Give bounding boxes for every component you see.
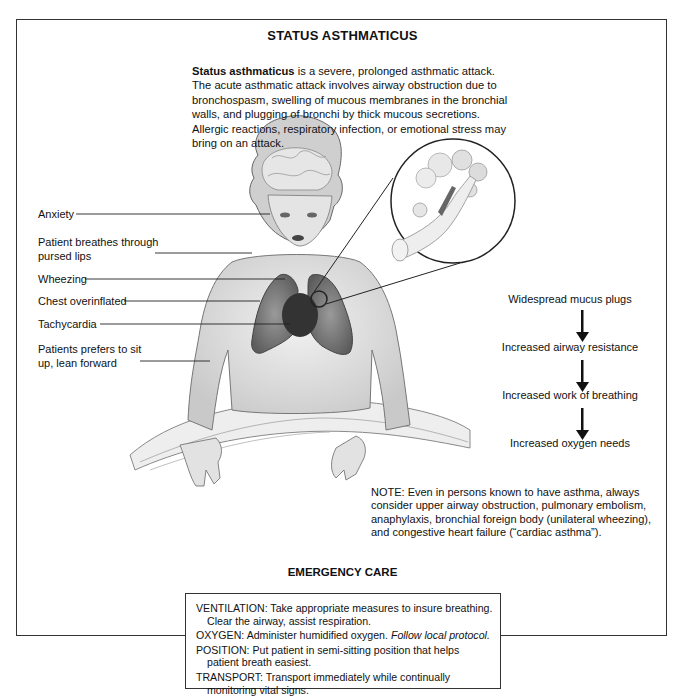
care-item-continuation: Clear the airway, assist respiration.	[196, 615, 494, 628]
label-wheezing: Wheezing	[38, 273, 87, 287]
label-pursed-lips: Patient breathes throughpursed lips	[38, 236, 158, 263]
label-text: pursed lips	[38, 250, 158, 264]
intro-bold-term: Status asthmaticus	[192, 65, 295, 77]
label-text: Wheezing	[38, 273, 87, 285]
flow-step: Increased oxygen needs	[480, 436, 660, 450]
page-title: STATUS ASTHMATICUS	[0, 28, 685, 43]
intro-text: is a severe, prolonged asthmatic attack.…	[192, 65, 507, 149]
care-item-text: VENTILATION: Take appropriate measures t…	[196, 602, 494, 615]
label-text: Patient breathes through	[38, 236, 158, 250]
emergency-care-box: VENTILATION: Take appropriate measures t…	[185, 593, 501, 689]
label-text: up, lean forward	[38, 357, 141, 371]
down-arrow-icon	[480, 354, 660, 388]
care-item-continuation: patient breath easiest.	[196, 656, 494, 669]
care-item-text: POSITION: Put patient in semi-sitting po…	[196, 644, 494, 657]
down-arrow-icon	[480, 306, 660, 340]
heart	[282, 293, 318, 337]
pathophysiology-flow: Widespread mucus plugs Increased airway …	[480, 292, 660, 450]
flow-step: Increased airway resistance	[480, 340, 660, 354]
care-item-transport: TRANSPORT: Transport immediately while c…	[196, 671, 494, 696]
flow-step: Increased work of breathing	[480, 388, 660, 402]
emergency-care-title: EMERGENCY CARE	[0, 566, 685, 578]
care-item-oxygen: OXYGEN: Administer humidified oxygen. Fo…	[196, 629, 494, 642]
label-chest-overinflated: Chest overinflated	[38, 295, 127, 309]
label-text: Anxiety	[38, 208, 74, 220]
label-tachycardia: Tachycardia	[38, 318, 97, 332]
care-item-continuation: monitoring vital signs.	[196, 684, 494, 696]
label-text: Tachycardia	[38, 318, 97, 330]
care-item-italic-note: Follow local protocol.	[391, 629, 490, 641]
care-item-text: OXYGEN: Administer humidified oxygen.	[196, 629, 391, 641]
label-text: Chest overinflated	[38, 295, 127, 307]
bronchiole-inset	[391, 139, 515, 263]
intro-paragraph: Status asthmaticus is a severe, prolonge…	[192, 64, 512, 150]
down-arrow-icon	[480, 402, 660, 436]
label-anxiety: Anxiety	[38, 208, 74, 222]
flow-step: Widespread mucus plugs	[480, 292, 660, 306]
note-text: NOTE: Even in persons known to have asth…	[371, 486, 671, 540]
label-text: Patients prefers to sit	[38, 343, 141, 357]
label-sit-up: Patients prefers to situp, lean forward	[38, 343, 141, 370]
care-item-ventilation: VENTILATION: Take appropriate measures t…	[196, 602, 494, 627]
care-item-text: TRANSPORT: Transport immediately while c…	[196, 671, 494, 684]
care-item-position: POSITION: Put patient in semi-sitting po…	[196, 644, 494, 669]
